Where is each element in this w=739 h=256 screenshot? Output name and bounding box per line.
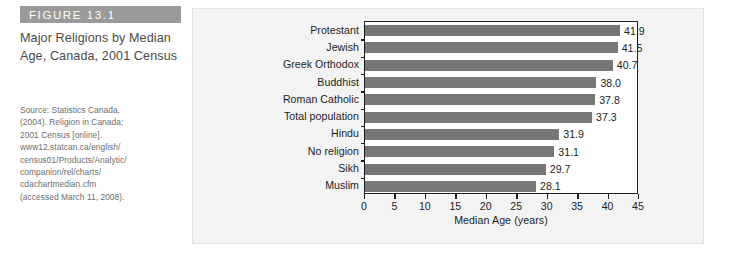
bars-layer: 41.941.540.738.037.837.331.931.129.728.1 xyxy=(365,22,637,193)
bar-row: 31.9 xyxy=(365,129,639,140)
x-axis-tick xyxy=(394,194,395,199)
x-axis-tick xyxy=(425,194,426,199)
bar-value-label: 38.0 xyxy=(596,77,621,89)
source-line: (2004). Religion in Canada: xyxy=(20,116,184,128)
bar-row: 28.1 xyxy=(365,181,639,192)
figure-caption-column: FIGURE 13.1 Major Religions by Median Ag… xyxy=(0,0,192,256)
y-axis-category-label: No religion xyxy=(308,145,359,157)
bar-row: 37.8 xyxy=(365,94,639,105)
bar-row: 38.0 xyxy=(365,77,639,88)
bar-row: 41.5 xyxy=(365,42,639,53)
bar-value-label: 29.7 xyxy=(546,163,571,175)
y-axis-category-label: Muslim xyxy=(325,179,359,191)
x-axis-tick xyxy=(547,194,548,199)
x-axis-tick-label: 25 xyxy=(510,200,522,212)
x-axis-tick-label: 45 xyxy=(632,200,644,212)
y-axis-tick xyxy=(361,160,365,161)
y-axis-category-label: Greek Orthodox xyxy=(283,58,359,70)
bar-value-label: 31.1 xyxy=(554,146,579,158)
bar-row: 41.9 xyxy=(365,25,639,36)
x-axis-tick xyxy=(455,194,456,199)
bar-row: 40.7 xyxy=(365,60,639,71)
bar-value-label: 28.1 xyxy=(536,180,561,192)
bar xyxy=(365,77,596,88)
source-line: www12.statcan.ca/english/ xyxy=(20,141,184,153)
y-axis-tick xyxy=(361,143,365,144)
x-axis-tick xyxy=(364,194,365,199)
source-line: Source: Statistics Canada. xyxy=(20,104,184,116)
bar-value-label: 41.9 xyxy=(620,25,645,37)
bar-value-label: 37.8 xyxy=(595,94,620,106)
bar xyxy=(365,146,554,157)
bar xyxy=(365,181,536,192)
bar xyxy=(365,42,618,53)
bar xyxy=(365,129,559,140)
figure-header-bar: FIGURE 13.1 xyxy=(20,6,181,23)
bar-value-label: 40.7 xyxy=(613,59,638,71)
x-axis-tick-label: 10 xyxy=(419,200,431,212)
plot-area: 41.941.540.738.037.837.331.931.129.728.1 xyxy=(364,21,638,194)
y-axis-category-label: Jewish xyxy=(326,41,359,53)
source-line: cdachartmedian.cfm xyxy=(20,178,184,190)
bar xyxy=(365,94,595,105)
x-axis-tick xyxy=(608,194,609,199)
x-axis-tick xyxy=(516,194,517,199)
y-axis-tick xyxy=(361,126,365,127)
bar xyxy=(365,60,613,71)
y-axis-tick xyxy=(361,74,365,75)
bar-row: 29.7 xyxy=(365,164,639,175)
y-axis-category-label: Buddhist xyxy=(317,76,359,88)
source-line: (accessed March 11, 2008). xyxy=(20,191,184,203)
x-axis-tick-label: 5 xyxy=(391,200,397,212)
bar xyxy=(365,164,546,175)
x-axis-tick xyxy=(577,194,578,199)
x-axis-tick xyxy=(486,194,487,199)
source-line: census01/Products/Analytic/ xyxy=(20,154,184,166)
x-axis-tick-label: 40 xyxy=(602,200,614,212)
bar-row: 31.1 xyxy=(365,146,639,157)
source-line: 2001 Census [online]. xyxy=(20,129,184,141)
figure-number-label: FIGURE 13.1 xyxy=(20,9,116,21)
bar-row: 37.3 xyxy=(365,112,639,123)
x-axis-tick-label: 30 xyxy=(541,200,553,212)
y-axis-category-label: Protestant xyxy=(310,24,359,36)
figure-source-note: Source: Statistics Canada.(2004). Religi… xyxy=(20,104,184,203)
bar xyxy=(365,25,620,36)
y-axis-category-label: Roman Catholic xyxy=(283,93,359,105)
bar xyxy=(365,112,592,123)
y-axis-category-label: Sikh xyxy=(338,162,359,174)
bar-value-label: 41.5 xyxy=(618,42,643,54)
y-axis-tick xyxy=(361,57,365,58)
y-axis-category-label: Hindu xyxy=(331,127,359,139)
chart-panel: ProtestantJewishGreek OrthodoxBuddhistRo… xyxy=(192,8,704,244)
x-axis-tick xyxy=(638,194,639,199)
x-axis-tick-label: 0 xyxy=(361,200,367,212)
y-axis-tick xyxy=(361,91,365,92)
y-axis-category-labels: ProtestantJewishGreek OrthodoxBuddhistRo… xyxy=(193,21,359,194)
y-axis-tick xyxy=(361,109,365,110)
bar-chart: ProtestantJewishGreek OrthodoxBuddhistRo… xyxy=(193,9,705,245)
y-axis-tick xyxy=(361,39,365,40)
y-axis-category-label: Total population xyxy=(284,110,359,122)
source-line: companion/rel/charts/ xyxy=(20,166,184,178)
bar-value-label: 31.9 xyxy=(559,128,584,140)
x-axis-tick-label: 20 xyxy=(480,200,492,212)
x-axis-tick-label: 15 xyxy=(449,200,461,212)
y-axis-tick xyxy=(361,178,365,179)
x-axis-tick-label: 35 xyxy=(571,200,583,212)
x-axis-title: Median Age (years) xyxy=(364,214,638,226)
bar-value-label: 37.3 xyxy=(592,111,617,123)
figure-title: Major Religions by Median Age, Canada, 2… xyxy=(20,30,180,65)
